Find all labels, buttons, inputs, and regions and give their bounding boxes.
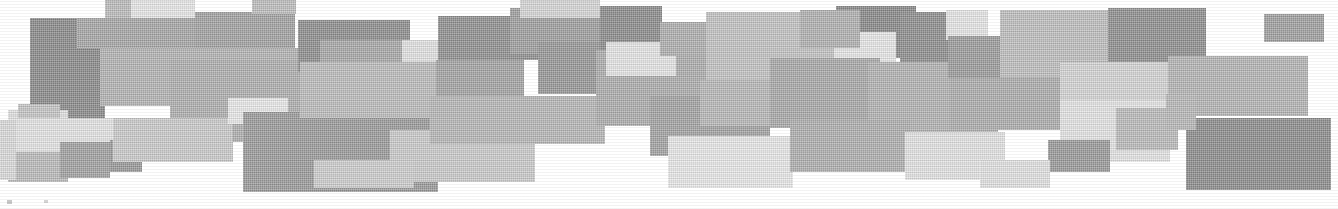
block-dark-right-w <box>948 36 1008 78</box>
block-dark-corner-af <box>1186 118 1331 190</box>
block-top-edge-ak <box>252 0 296 14</box>
block-pale-mid-h <box>520 0 600 18</box>
block-far-right-dark <box>1264 14 1324 42</box>
block-grey-upper-o <box>800 10 860 48</box>
block-grey-bottom-ah <box>1166 94 1196 130</box>
block-light-bottom-ai <box>314 160 414 188</box>
block-top-mid-a <box>77 18 195 48</box>
residual-mark-left <box>7 200 12 204</box>
block-low-grey-t <box>790 120 910 172</box>
block-grey-long-e <box>430 96 605 144</box>
block-left-bottom-grey <box>8 152 68 182</box>
block-left-small-dark <box>60 142 110 178</box>
residual-mark-center <box>44 200 48 203</box>
block-mid-right-p <box>770 58 880 128</box>
block-pale-low-k <box>668 136 793 188</box>
block-mid-light-strip <box>113 118 233 162</box>
redacted-mosaic-figure <box>0 0 1338 209</box>
block-dark-small-ad <box>1048 140 1110 172</box>
block-left-midtone <box>105 0 131 18</box>
block-left-edge-aj <box>0 120 16 180</box>
block-pale-bottom-ag <box>980 160 1050 188</box>
